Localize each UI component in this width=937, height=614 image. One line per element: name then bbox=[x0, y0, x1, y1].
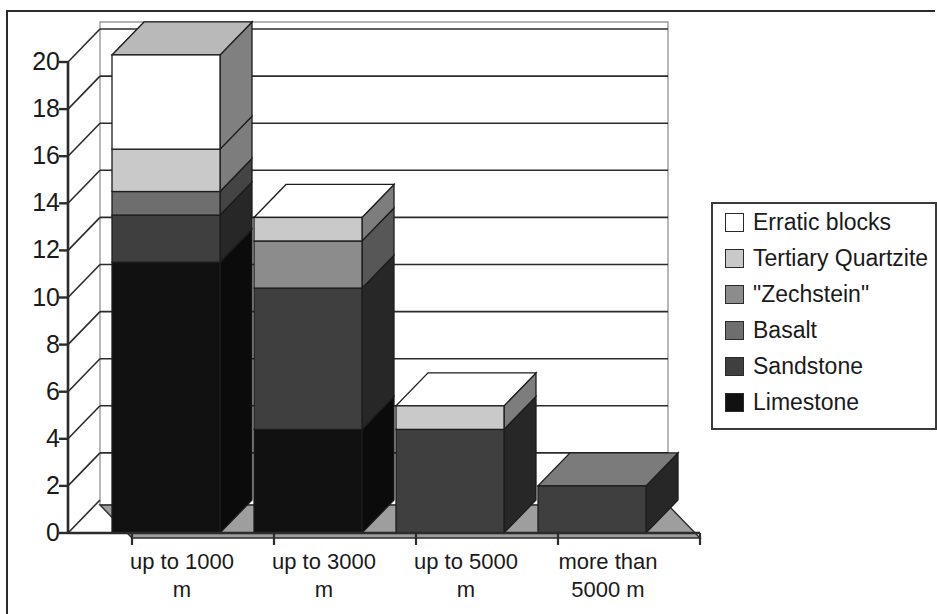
bar-group[interactable] bbox=[538, 453, 678, 533]
axis-depth-connector bbox=[68, 76, 100, 109]
y-axis-tick-labels: 02468101214161820 bbox=[10, 0, 60, 614]
legend-item[interactable]: "Zechstein" bbox=[713, 276, 935, 312]
axis-depth-connector bbox=[68, 312, 100, 345]
y-axis-tick-label: 0 bbox=[14, 520, 60, 545]
x-axis-tick-label: more than5000 m bbox=[533, 548, 683, 604]
legend-swatch-icon bbox=[725, 393, 744, 412]
axis-depth-connector bbox=[68, 123, 100, 156]
y-axis-tick-label: 14 bbox=[14, 190, 60, 215]
bar-segment-front[interactable] bbox=[396, 406, 504, 430]
x-axis-tick-label-line1: up to 3000 bbox=[249, 548, 399, 576]
axis-depth-connector bbox=[68, 359, 100, 392]
y-axis-tick-label: 10 bbox=[14, 285, 60, 310]
axis-depth-connectors bbox=[68, 29, 100, 533]
axis-depth-connector bbox=[68, 406, 100, 439]
legend-swatch-icon bbox=[725, 321, 744, 340]
x-axis-tick-label: up to 3000m bbox=[249, 548, 399, 604]
axis-depth-connector bbox=[68, 453, 100, 486]
chart-legend[interactable]: Erratic blocksTertiary Quartzite"Zechste… bbox=[711, 202, 937, 430]
legend-swatch-icon bbox=[725, 357, 744, 376]
bar-segment-front[interactable] bbox=[254, 217, 362, 241]
y-axis-tick-label: 4 bbox=[14, 426, 60, 451]
y-axis-tick-label: 12 bbox=[14, 237, 60, 262]
x-axis-tick-label-line2: 5000 m bbox=[533, 576, 683, 604]
x-axis-tick-label: up to 1000m bbox=[107, 548, 257, 604]
legend-swatch-icon bbox=[725, 249, 744, 268]
x-axis-tick-label-line1: more than bbox=[533, 548, 683, 576]
legend-swatch-icon bbox=[725, 213, 744, 232]
axis-depth-connector bbox=[68, 217, 100, 250]
bar-segment-front[interactable] bbox=[538, 486, 646, 533]
legend-item-label: Tertiary Quartzite bbox=[753, 246, 928, 270]
x-axis-tick-label-line1: up to 5000 bbox=[391, 548, 541, 576]
legend-item[interactable]: Tertiary Quartzite bbox=[713, 240, 935, 276]
legend-item-label: Sandstone bbox=[753, 354, 863, 378]
bar-group[interactable] bbox=[396, 373, 536, 533]
bar-segment-front[interactable] bbox=[112, 55, 220, 149]
legend-item[interactable]: Sandstone bbox=[713, 348, 935, 384]
legend-swatch-icon bbox=[725, 285, 744, 304]
chart-container: 02468101214161820 up to 1000mup to 3000m… bbox=[0, 0, 937, 614]
x-axis-tick-label-line2: m bbox=[391, 576, 541, 604]
legend-item-label: Erratic blocks bbox=[753, 210, 891, 234]
bar-segment-front[interactable] bbox=[254, 288, 362, 429]
bar-group[interactable] bbox=[254, 184, 394, 533]
y-axis-tick-label: 8 bbox=[14, 332, 60, 357]
legend-item[interactable]: Basalt bbox=[713, 312, 935, 348]
y-axis-tick-label: 6 bbox=[14, 379, 60, 404]
x-axis-tick-label-line2: m bbox=[107, 576, 257, 604]
legend-item-label: Limestone bbox=[753, 390, 859, 414]
y-axis-tick-label: 16 bbox=[14, 143, 60, 168]
bar-segment-side bbox=[220, 229, 252, 533]
axis-depth-connector bbox=[68, 265, 100, 298]
bar-segment-front[interactable] bbox=[112, 262, 220, 533]
legend-item-label: Basalt bbox=[753, 318, 817, 342]
bar-segment-front[interactable] bbox=[112, 192, 220, 216]
y-axis-tick-label: 2 bbox=[14, 473, 60, 498]
legend-item[interactable]: Erratic blocks bbox=[713, 204, 935, 240]
y-axis bbox=[59, 62, 68, 533]
axis-depth-connector bbox=[68, 170, 100, 203]
x-axis-tick-label: up to 5000m bbox=[391, 548, 541, 604]
axis-depth-connector bbox=[68, 29, 100, 62]
bar-segment-front[interactable] bbox=[254, 241, 362, 288]
x-axis-tick-label-line1: up to 1000 bbox=[107, 548, 257, 576]
bar-segment-front[interactable] bbox=[396, 429, 504, 533]
bar-segment-front[interactable] bbox=[112, 215, 220, 262]
bar-segment-front[interactable] bbox=[112, 149, 220, 191]
bar-segment-front[interactable] bbox=[254, 429, 362, 533]
x-axis-tick-label-line2: m bbox=[249, 576, 399, 604]
legend-item-label: "Zechstein" bbox=[753, 282, 869, 306]
legend-item[interactable]: Limestone bbox=[713, 384, 935, 420]
y-axis-tick-label: 20 bbox=[14, 49, 60, 74]
bar-group[interactable] bbox=[112, 22, 252, 533]
y-axis-tick-label: 18 bbox=[14, 96, 60, 121]
axis-depth-connector bbox=[68, 500, 100, 533]
